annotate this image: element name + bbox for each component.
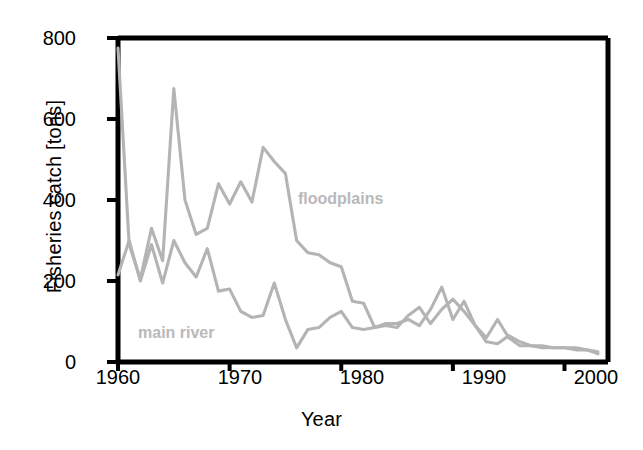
chart-figure: Fisheries catch [tons] 800 600 400 200 0… [0, 0, 643, 450]
plot-area [0, 0, 643, 450]
series-label-main-river: main river [138, 324, 214, 342]
series-label-floodplains: floodplains [298, 190, 383, 208]
